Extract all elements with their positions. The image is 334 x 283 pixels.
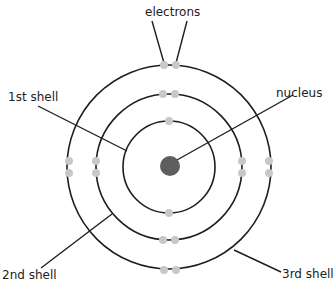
nucleus <box>160 156 180 176</box>
electron-shell3 <box>160 61 168 69</box>
electron-shell3 <box>265 157 273 165</box>
electron-shell3 <box>160 266 168 274</box>
electrons-leader-left <box>152 21 164 63</box>
electron-shell2 <box>92 169 100 177</box>
atom-diagram: electrons 1st shell nucleus 2nd shell 3r… <box>0 0 334 283</box>
second-shell-leader <box>41 214 112 268</box>
first-shell-label: 1st shell <box>8 90 58 104</box>
second-shell-label: 2nd shell <box>2 268 57 282</box>
electrons-leader-right <box>176 21 187 63</box>
electron-shell3 <box>65 169 73 177</box>
electron-shell3 <box>172 61 180 69</box>
electron-shell1 <box>165 117 173 125</box>
electron-shell2 <box>92 157 100 165</box>
electron-shell3 <box>172 266 180 274</box>
electron-shell1 <box>165 209 173 217</box>
electron-shell2 <box>238 169 246 177</box>
electron-shell3 <box>65 157 73 165</box>
nucleus-leader <box>168 95 293 165</box>
electron-shell2 <box>171 90 179 98</box>
electron-shell3 <box>265 169 273 177</box>
electron-shell2 <box>238 157 246 165</box>
third-shell-leader <box>234 250 281 272</box>
electrons-label: electrons <box>145 5 200 19</box>
electron-shell2 <box>159 236 167 244</box>
third-shell-label: 3rd shell <box>282 267 334 281</box>
electron-shell2 <box>171 236 179 244</box>
nucleus-label: nucleus <box>276 86 322 100</box>
electron-shell2 <box>159 90 167 98</box>
